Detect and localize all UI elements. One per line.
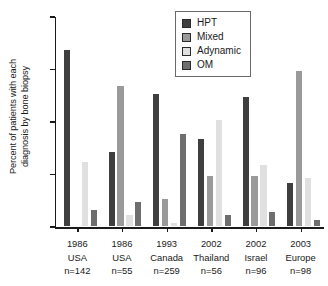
bar-hpt-0 xyxy=(63,49,71,228)
legend-item-om[interactable]: OM xyxy=(182,58,241,72)
y-tick-40 xyxy=(50,121,55,122)
x-tick-2 xyxy=(167,227,168,232)
x-tick-0 xyxy=(77,227,78,232)
x-tick-4 xyxy=(256,227,257,232)
legend-label: HPT xyxy=(197,18,217,28)
bar-group xyxy=(286,17,321,227)
y-axis-line xyxy=(55,17,56,228)
bar-om-0 xyxy=(90,209,98,227)
bar-mixed-3 xyxy=(206,175,214,228)
bar-om-3 xyxy=(224,214,232,227)
bar-mixed-5 xyxy=(295,70,303,228)
bar-hpt-2 xyxy=(152,93,160,227)
legend-label: Mixed xyxy=(197,32,224,42)
x-group-label-5: 2003Europen=98 xyxy=(274,237,327,278)
bar-hpt-4 xyxy=(242,96,250,227)
bar-mixed-1 xyxy=(116,85,124,227)
legend-swatch-icon xyxy=(182,33,191,42)
x-axis-line xyxy=(55,227,324,229)
y-tick-0 xyxy=(50,226,55,227)
legend-label: OM xyxy=(197,60,213,70)
y-axis-title: Percent of patients with each diagnosis … xyxy=(8,12,31,222)
y-tick-20 xyxy=(50,174,55,175)
bar-om-5 xyxy=(313,219,321,227)
bar-adynamic-3 xyxy=(215,119,223,227)
bar-mixed-4 xyxy=(250,175,258,228)
bar-om-1 xyxy=(134,201,142,227)
bar-group xyxy=(63,17,98,227)
x-tick-1 xyxy=(122,227,123,232)
x-label-n: n=98 xyxy=(274,264,327,278)
bar-mixed-2 xyxy=(161,198,169,227)
legend: HPTMixedAdynamicOM xyxy=(175,11,251,77)
bar-adynamic-0 xyxy=(81,161,89,227)
bar-adynamic-4 xyxy=(259,164,267,227)
bar-hpt-1 xyxy=(108,151,116,227)
legend-item-hpt[interactable]: HPT xyxy=(182,16,241,30)
bar-om-4 xyxy=(268,211,276,227)
legend-label: Adynamic xyxy=(197,46,241,56)
bar-adynamic-2 xyxy=(170,222,178,227)
bar-adynamic-5 xyxy=(304,177,312,227)
bar-om-2 xyxy=(179,133,187,228)
legend-swatch-icon xyxy=(182,61,191,70)
x-tick-3 xyxy=(211,227,212,232)
bar-hpt-5 xyxy=(286,182,294,227)
legend-swatch-icon xyxy=(182,47,191,56)
y-tick-80 xyxy=(50,16,55,17)
x-label-year: 2003 xyxy=(274,237,327,251)
bar-chart: Percent of patients with each diagnosis … xyxy=(0,0,328,286)
y-tick-60 xyxy=(50,69,55,70)
legend-swatch-icon xyxy=(182,19,191,28)
bar-adynamic-1 xyxy=(125,214,133,227)
bar-group xyxy=(108,17,143,227)
x-tick-5 xyxy=(301,227,302,232)
x-label-country: Europe xyxy=(274,251,327,265)
legend-item-adynamic[interactable]: Adynamic xyxy=(182,44,241,58)
legend-item-mixed[interactable]: Mixed xyxy=(182,30,241,44)
bar-hpt-3 xyxy=(197,138,205,227)
